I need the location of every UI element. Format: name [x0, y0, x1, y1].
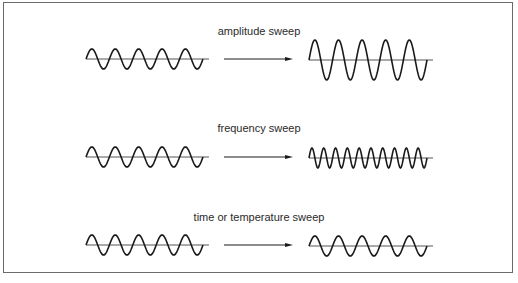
waves-canvas [0, 0, 518, 283]
output-wave-3 [309, 236, 433, 256]
input-wave-2 [86, 147, 209, 167]
arrow-right-icon [224, 155, 293, 159]
output-wave-1 [309, 40, 433, 80]
output-wave-2 [309, 148, 433, 168]
input-wave-3 [86, 235, 209, 255]
input-wave-1 [86, 49, 209, 69]
arrow-right-icon [224, 57, 293, 61]
arrow-right-icon [224, 243, 293, 247]
sine-wave [309, 148, 427, 168]
